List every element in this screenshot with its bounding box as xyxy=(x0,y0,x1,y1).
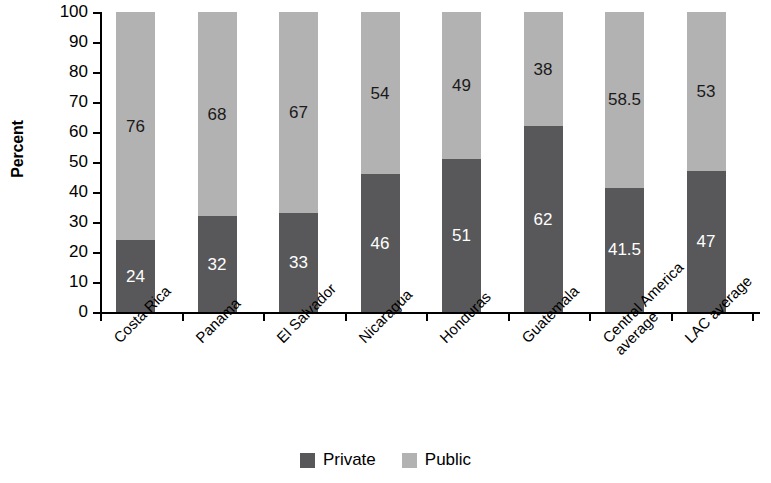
y-tick-label-40: 40 xyxy=(40,182,88,202)
bar-costa-rica[interactable]: 7624 xyxy=(116,12,155,312)
segment-public[interactable]: 49 xyxy=(442,12,481,159)
bar-lac-average[interactable]: 5347 xyxy=(687,12,726,312)
bar-guatemala[interactable]: 3862 xyxy=(524,12,563,312)
x-tick-0 xyxy=(100,312,102,321)
y-tick-10 xyxy=(93,282,101,284)
segment-private[interactable]: 46 xyxy=(361,174,400,312)
y-tick-label-10: 10 xyxy=(40,272,88,292)
x-tick-5 xyxy=(508,312,510,321)
stacked-bar-chart: Percent 76246832673354464951386258.541.5… xyxy=(0,0,771,483)
value-label-private: 41.5 xyxy=(608,241,641,258)
y-tick-100 xyxy=(93,12,101,14)
bar-honduras[interactable]: 4951 xyxy=(442,12,481,312)
value-label-public: 58.5 xyxy=(608,91,641,108)
legend-label-private: Private xyxy=(323,450,376,470)
plot-area: 76246832673354464951386258.541.55347 xyxy=(100,12,760,313)
y-tick-90 xyxy=(93,42,101,44)
x-tick-6 xyxy=(589,312,591,321)
segment-private[interactable]: 62 xyxy=(524,126,563,312)
value-label-private: 62 xyxy=(534,211,553,228)
y-tick-label-0: 0 xyxy=(40,302,88,322)
bar-panama[interactable]: 6832 xyxy=(198,12,237,312)
y-tick-label-70: 70 xyxy=(40,92,88,112)
x-tick-1 xyxy=(182,312,184,321)
y-tick-80 xyxy=(93,72,101,74)
x-tick-3 xyxy=(345,312,347,321)
y-tick-label-90: 90 xyxy=(40,32,88,52)
segment-public[interactable]: 54 xyxy=(361,12,400,174)
segment-private[interactable]: 47 xyxy=(687,171,726,312)
segment-public[interactable]: 53 xyxy=(687,12,726,171)
segment-public[interactable]: 58.5 xyxy=(605,12,644,188)
x-tick-8 xyxy=(752,312,754,321)
value-label-private: 33 xyxy=(289,254,308,271)
legend-swatch-private xyxy=(300,453,315,468)
segment-private[interactable]: 51 xyxy=(442,159,481,312)
y-tick-label-60: 60 xyxy=(40,122,88,142)
value-label-public: 38 xyxy=(534,61,553,78)
value-label-public: 67 xyxy=(289,104,308,121)
segment-public[interactable]: 38 xyxy=(524,12,563,126)
segment-public[interactable]: 68 xyxy=(198,12,237,216)
y-tick-label-20: 20 xyxy=(40,242,88,262)
value-label-public: 49 xyxy=(452,77,471,94)
value-label-private: 51 xyxy=(452,227,471,244)
y-tick-label-100: 100 xyxy=(40,2,88,22)
y-tick-60 xyxy=(93,132,101,134)
y-axis-title: Percent xyxy=(9,89,27,209)
y-tick-70 xyxy=(93,102,101,104)
value-label-private: 46 xyxy=(371,235,390,252)
y-tick-label-80: 80 xyxy=(40,62,88,82)
x-tick-4 xyxy=(426,312,428,321)
y-tick-40 xyxy=(93,192,101,194)
y-tick-label-30: 30 xyxy=(40,212,88,232)
value-label-private: 24 xyxy=(126,268,145,285)
value-label-public: 68 xyxy=(208,106,227,123)
y-tick-30 xyxy=(93,222,101,224)
bar-nicaragua[interactable]: 5446 xyxy=(361,12,400,312)
legend-swatch-public xyxy=(402,453,417,468)
value-label-public: 53 xyxy=(697,83,716,100)
value-label-public: 76 xyxy=(126,118,145,135)
value-label-private: 32 xyxy=(208,256,227,273)
y-tick-label-50: 50 xyxy=(40,152,88,172)
chart-legend: PrivatePublic xyxy=(0,450,771,470)
segment-public[interactable]: 67 xyxy=(279,12,318,213)
x-tick-2 xyxy=(263,312,265,321)
value-label-private: 47 xyxy=(697,233,716,250)
x-tick-7 xyxy=(671,312,673,321)
y-tick-50 xyxy=(93,162,101,164)
segment-public[interactable]: 76 xyxy=(116,12,155,240)
y-tick-20 xyxy=(93,252,101,254)
value-label-public: 54 xyxy=(371,85,390,102)
legend-item-private[interactable]: Private xyxy=(300,450,376,470)
bar-el-salvador[interactable]: 6733 xyxy=(279,12,318,312)
bar-central-america-average[interactable]: 58.541.5 xyxy=(605,12,644,312)
legend-label-public: Public xyxy=(425,450,471,470)
legend-item-public[interactable]: Public xyxy=(402,450,471,470)
